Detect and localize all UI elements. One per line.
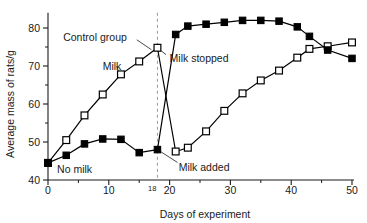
data-point-marker [136, 58, 143, 65]
x-tick-label: 0 [45, 184, 51, 196]
data-point-marker [100, 136, 106, 142]
data-point-marker [239, 90, 246, 97]
data-point-marker [172, 31, 178, 37]
data-point-marker [45, 160, 51, 166]
annotation-labels: Control groupMilkMilk stoppedNo milkMilk… [57, 31, 230, 175]
y-tick-label: 60 [28, 98, 40, 110]
data-point-marker [239, 17, 245, 23]
y-axis-title: Average mass of rats/g [4, 50, 16, 158]
x-tick-label: 20 [164, 184, 176, 196]
data-point-marker [63, 137, 70, 144]
annotation-milk: Milk [103, 60, 122, 72]
x-tick-label: 18 [148, 184, 156, 193]
data-point-marker [294, 24, 300, 30]
leader-line [137, 40, 152, 50]
data-point-marker [276, 67, 283, 74]
data-point-marker [203, 21, 209, 27]
data-point-marker [154, 44, 161, 51]
y-tick-label: 80 [28, 22, 40, 34]
data-point-marker [154, 146, 160, 152]
annotation-control-group: Control group [63, 31, 127, 43]
rat-growth-line-chart: Average mass of rats/g Days of experimen… [0, 0, 367, 223]
x-axis-title: Days of experiment [160, 208, 251, 220]
data-point-marker [257, 77, 264, 84]
data-point-marker [136, 149, 142, 155]
data-point-marker [184, 144, 191, 151]
data-point-marker [118, 136, 124, 142]
chart-figure: Average mass of rats/g Days of experimen… [0, 0, 367, 223]
y-tick-label: 70 [28, 60, 40, 72]
data-point-marker [99, 91, 106, 98]
leader-line [161, 50, 167, 54]
annotation-milk-stopped: Milk stopped [170, 52, 229, 64]
data-point-marker [81, 112, 88, 119]
data-point-marker [294, 54, 301, 61]
data-point-marker [306, 46, 313, 53]
x-axis-ticks: 0101820304050 [45, 180, 358, 196]
x-tick-label: 50 [346, 184, 358, 196]
data-point-marker [221, 107, 228, 114]
data-point-marker [118, 71, 125, 78]
data-point-marker [172, 148, 179, 155]
data-point-marker [324, 47, 330, 53]
annotation-milk-added: Milk added [179, 161, 230, 173]
data-point-marker [185, 23, 191, 29]
data-point-marker [306, 33, 312, 39]
data-point-marker [349, 55, 355, 61]
x-tick-label: 10 [103, 184, 115, 196]
data-point-marker [203, 128, 210, 135]
data-point-marker [63, 152, 69, 158]
data-point-marker [221, 19, 227, 25]
data-point-marker [81, 141, 87, 147]
annotation-leader-lines [117, 40, 178, 163]
data-point-marker [258, 17, 264, 23]
x-tick-label: 40 [285, 184, 297, 196]
x-tick-label: 30 [225, 184, 237, 196]
data-point-marker [276, 18, 282, 24]
y-tick-label: 40 [28, 174, 40, 186]
annotation-no-milk: No milk [57, 163, 93, 175]
data-point-marker [349, 39, 356, 46]
y-tick-label: 50 [28, 136, 40, 148]
